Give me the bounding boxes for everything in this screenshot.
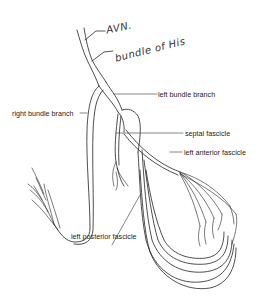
label-left-posterior-fascicle: left posterior fascicle	[71, 233, 137, 240]
label-right-bundle-branch: right bundle branch	[12, 110, 74, 117]
septal-fascicle	[113, 114, 128, 190]
left-anterior-fascicle	[124, 130, 180, 175]
left-anterior-fan	[180, 172, 237, 246]
annotation-leaders	[85, 31, 113, 61]
right-branch-fibers	[28, 168, 60, 230]
label-leaders	[80, 94, 183, 245]
label-left-bundle-branch: left bundle branch	[158, 91, 215, 98]
label-left-anterior-fascicle: left anterior fascicle	[184, 149, 246, 156]
label-septal-fascicle: septal fascicle	[185, 130, 230, 137]
left-bundle-branch	[99, 82, 140, 152]
bundle-of-his	[77, 28, 106, 86]
conduction-system-diagram: AVN. bundle of His left bundle branch ri…	[0, 0, 258, 300]
